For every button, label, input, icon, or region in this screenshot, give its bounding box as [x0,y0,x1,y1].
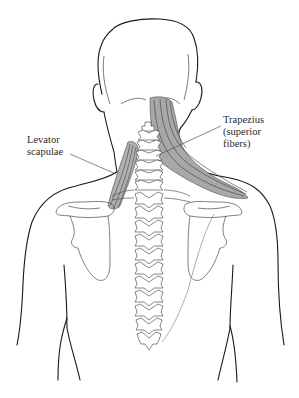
levator-label-line1: Levator [27,134,63,146]
anatomy-illustration [0,0,299,398]
trapezius-label-line3: fibers) [223,138,264,150]
levator-scapulae-label: Levator scapulae [27,134,63,158]
levator-leader-line [70,154,116,174]
trapezius-label-line2: (superior [223,126,264,138]
trapezius-label-line1: Trapezius [223,114,264,126]
skull-contour [103,54,189,104]
levator-label-line2: scapulae [27,146,63,158]
anatomy-figure: Levator scapulae Trapezius (superior fib… [0,0,299,398]
trapezius-label: Trapezius (superior fibers) [223,114,264,150]
spine [135,122,163,350]
levator-scapulae-muscle [108,141,138,209]
